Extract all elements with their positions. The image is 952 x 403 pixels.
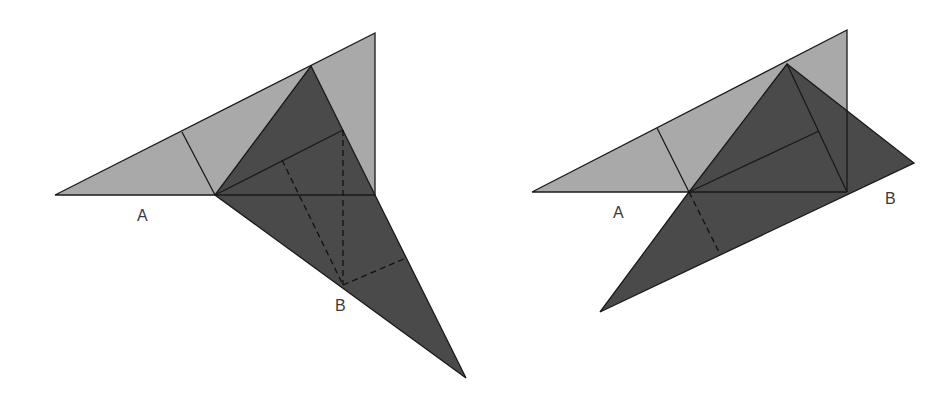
right-panel: A B [532,30,914,312]
right-label-b: B [885,190,896,207]
left-label-a: A [137,207,148,224]
left-panel: A B [55,33,466,378]
right-label-a: A [613,204,624,221]
left-label-b: B [335,297,346,314]
folding-diagram: A B A B [0,0,952,403]
